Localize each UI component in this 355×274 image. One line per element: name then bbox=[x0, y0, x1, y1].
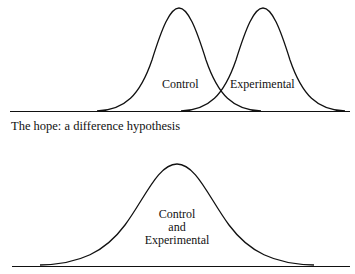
combined-label-line-3: Experimental bbox=[137, 234, 217, 247]
control-label: Control bbox=[162, 78, 199, 91]
combined-label: Control and Experimental bbox=[137, 208, 217, 247]
caption: The hope: a difference hypothesis bbox=[11, 120, 180, 133]
experimental-label: Experimental bbox=[230, 78, 295, 91]
